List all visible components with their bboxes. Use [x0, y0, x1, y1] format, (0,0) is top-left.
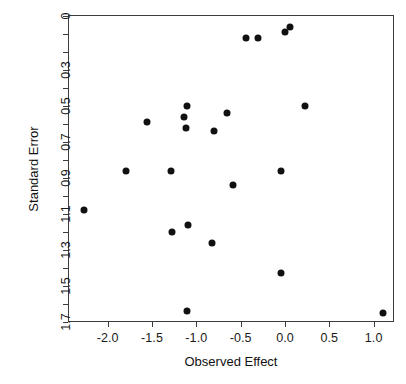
x-axis-title: Observed Effect: [185, 354, 278, 369]
plot-frame: [68, 15, 394, 322]
y-tick-label: 1.3: [59, 241, 73, 259]
y-tick-mark: [63, 88, 68, 89]
data-point: [255, 34, 262, 41]
x-tick-label: 1.0: [365, 331, 383, 345]
y-tick-label: 0.9: [59, 169, 73, 187]
data-point: [209, 239, 216, 246]
x-tick-label: -1.0: [185, 331, 207, 345]
y-tick-label: 0: [59, 12, 73, 19]
x-tick-label: -1.5: [141, 331, 163, 345]
y-tick-mark: [63, 34, 68, 35]
data-point: [211, 128, 218, 135]
data-point: [229, 182, 236, 189]
y-tick-label: 1.7: [59, 313, 73, 331]
y-tick-label: 0.3: [59, 61, 73, 79]
y-tick-mark: [63, 124, 68, 125]
x-tick-label: 0.5: [320, 331, 338, 345]
data-point: [185, 221, 192, 228]
y-tick-mark: [63, 268, 68, 269]
data-point: [169, 229, 176, 236]
data-point: [224, 110, 231, 117]
x-tick-label: -0.5: [230, 331, 252, 345]
x-tick-label: -2.0: [97, 331, 119, 345]
data-point: [180, 113, 187, 120]
data-point: [167, 167, 174, 174]
x-tick-mark: [241, 322, 242, 327]
x-tick-mark: [329, 322, 330, 327]
y-tick-mark: [63, 196, 68, 197]
data-point: [242, 34, 249, 41]
y-tick-mark: [63, 160, 68, 161]
x-tick-mark: [108, 322, 109, 327]
y-tick-mark: [63, 52, 68, 53]
data-point: [379, 310, 386, 317]
x-tick-mark: [285, 322, 286, 327]
y-tick-label: 0.5: [59, 97, 73, 115]
data-point: [278, 167, 285, 174]
data-point: [184, 103, 191, 110]
x-tick-mark: [152, 322, 153, 327]
funnel-plot-canvas: -2.0-1.5-1.0-0.50.00.51.0 00.30.50.70.91…: [0, 0, 406, 384]
x-tick-mark: [196, 322, 197, 327]
data-point: [282, 29, 289, 36]
y-axis-title: Standard Error: [26, 126, 41, 211]
y-tick-label: 1.5: [59, 277, 73, 295]
data-point: [184, 308, 191, 315]
y-tick-label: 0.7: [59, 133, 73, 151]
data-point: [123, 167, 130, 174]
y-tick-mark: [63, 304, 68, 305]
data-point: [301, 103, 308, 110]
y-tick-label: 1.1: [59, 205, 73, 223]
data-point: [277, 270, 284, 277]
x-tick-label: 0.0: [276, 331, 294, 345]
data-point: [143, 119, 150, 126]
x-tick-mark: [374, 322, 375, 327]
data-point: [80, 207, 87, 214]
y-tick-mark: [63, 232, 68, 233]
data-point: [182, 124, 189, 131]
